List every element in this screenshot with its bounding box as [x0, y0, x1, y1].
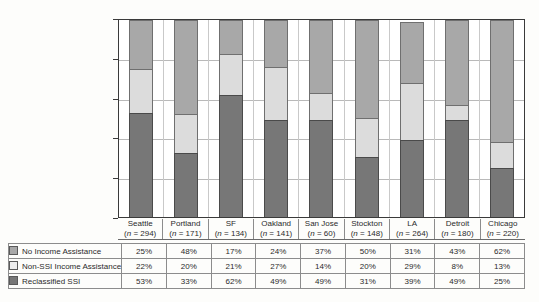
bar-segment[interactable]	[219, 20, 243, 53]
bar-segment[interactable]	[400, 140, 424, 217]
stacked-bar[interactable]	[309, 20, 333, 217]
legend-label: Non-SSI Income Assistance	[22, 262, 121, 271]
x-axis-label-city: Seattle	[128, 219, 153, 229]
table-row: Reclassified SSI53%33%62%49%49%31%39%49%…	[9, 274, 525, 289]
x-axis-label: Portland(n = 171)	[163, 219, 208, 239]
table-row: Non-SSI Income Assistance22%20%21%27%14%…	[9, 259, 525, 274]
bar-segment[interactable]	[219, 54, 243, 95]
bar-segment[interactable]	[400, 83, 424, 140]
stacked-bar[interactable]	[400, 20, 424, 217]
table-row-label-cell: Reclassified SSI	[9, 274, 122, 289]
x-axis-label: Chicago(n = 220)	[481, 219, 525, 239]
bar-segment[interactable]	[355, 20, 379, 118]
bar-segment[interactable]	[490, 142, 514, 168]
x-axis-label-city: San Jose	[305, 219, 338, 229]
bar-segment[interactable]	[490, 20, 514, 142]
bar-segment[interactable]	[309, 93, 333, 121]
bar-columns	[119, 20, 524, 217]
bar-segment[interactable]	[400, 22, 424, 83]
bar-segment[interactable]	[445, 20, 469, 105]
bar-segment[interactable]	[309, 120, 333, 217]
x-axis-label: SF(n = 134)	[209, 219, 254, 239]
x-axis-label: Stockton(n = 148)	[345, 219, 390, 239]
bar-column	[119, 20, 164, 217]
table-value-cell: 49%	[435, 274, 480, 289]
bar-column	[435, 20, 480, 217]
bar-column	[345, 20, 390, 217]
data-table: No Income Assistance25%48%17%24%37%50%31…	[8, 243, 525, 289]
table-value-cell: 14%	[301, 259, 346, 274]
stacked-bar[interactable]	[174, 20, 198, 217]
table-value-cell: 31%	[345, 274, 390, 289]
bar-column	[390, 20, 435, 217]
bar-column	[164, 20, 209, 217]
table-value-cell: 37%	[301, 244, 346, 259]
x-axis-label: Seattle(n = 294)	[118, 219, 163, 239]
table-value-cell: 22%	[122, 259, 167, 274]
bar-column	[209, 20, 254, 217]
stacked-bar[interactable]	[355, 20, 379, 217]
bar-segment[interactable]	[445, 120, 469, 217]
bar-segment[interactable]	[219, 95, 243, 217]
table-value-cell: 50%	[345, 244, 390, 259]
x-axis-label: LA(n = 264)	[390, 219, 435, 239]
table-value-cell: 20%	[166, 259, 211, 274]
bar-segment[interactable]	[355, 157, 379, 217]
plot-area	[118, 19, 525, 218]
bar-segment[interactable]	[174, 114, 198, 153]
x-axis-label-sample-size: (n = 171)	[169, 229, 201, 239]
bar-segment[interactable]	[174, 20, 198, 114]
x-axis-label-sample-size: (n = 148)	[351, 229, 383, 239]
x-axis-label-city: Detroit	[446, 219, 470, 229]
bar-segment[interactable]	[129, 20, 153, 69]
x-axis-label-sample-size: (n = 60)	[308, 229, 336, 239]
bar-segment[interactable]	[264, 20, 288, 67]
bar-column	[480, 20, 524, 217]
x-axis-label-city: Portland	[171, 219, 201, 229]
legend-swatch-no-income-assistance	[9, 246, 18, 255]
bar-segment[interactable]	[174, 153, 198, 217]
bar-segment[interactable]	[129, 113, 153, 217]
table-value-cell: 24%	[256, 244, 301, 259]
table-value-cell: 21%	[211, 259, 256, 274]
table-value-cell: 20%	[345, 259, 390, 274]
table-value-cell: 49%	[256, 274, 301, 289]
bar-segment[interactable]	[355, 118, 379, 157]
table-value-cell: 17%	[211, 244, 256, 259]
table-row-label-cell: Non-SSI Income Assistance	[9, 259, 122, 274]
stacked-bar[interactable]	[219, 20, 243, 217]
table-value-cell: 53%	[122, 274, 167, 289]
bar-segment[interactable]	[445, 105, 469, 121]
table-value-cell: 8%	[435, 259, 480, 274]
table-value-cell: 48%	[166, 244, 211, 259]
x-axis-labels: Seattle(n = 294)Portland(n = 171)SF(n = …	[118, 219, 525, 240]
x-axis-label-sample-size: (n = 220)	[487, 229, 519, 239]
legend-label: No Income Assistance	[22, 247, 101, 256]
chart-page: 0%20%40%60%80%100% Seattle(n = 294)Portl…	[0, 0, 539, 302]
stacked-bar[interactable]	[490, 20, 514, 217]
bar-segment[interactable]	[129, 69, 153, 112]
x-axis-label: San Jose(n = 60)	[299, 219, 344, 239]
bar-segment[interactable]	[490, 168, 514, 217]
table-value-cell: 31%	[390, 244, 435, 259]
table-value-cell: 29%	[390, 259, 435, 274]
table-row-label-cell: No Income Assistance	[9, 244, 122, 259]
legend-swatch-reclassified-ssi	[9, 276, 18, 285]
bar-segment[interactable]	[264, 67, 288, 120]
table-value-cell: 62%	[211, 274, 256, 289]
table-value-cell: 62%	[480, 244, 525, 259]
legend-swatch-non-ssi-income-assistance	[9, 261, 18, 270]
table-value-cell: 27%	[256, 259, 301, 274]
x-axis-label-sample-size: (n = 294)	[124, 229, 156, 239]
x-axis-label-city: Stockton	[351, 219, 382, 229]
bar-column	[254, 20, 299, 217]
x-axis-label-sample-size: (n = 180)	[441, 229, 473, 239]
stacked-bar[interactable]	[445, 20, 469, 217]
stacked-bar[interactable]	[129, 20, 153, 217]
x-axis-label-city: SF	[226, 219, 236, 229]
x-axis-label: Detroit(n = 180)	[435, 219, 480, 239]
bar-segment[interactable]	[309, 20, 333, 93]
x-axis-label-sample-size: (n = 264)	[396, 229, 428, 239]
stacked-bar[interactable]	[264, 20, 288, 217]
bar-segment[interactable]	[264, 120, 288, 217]
